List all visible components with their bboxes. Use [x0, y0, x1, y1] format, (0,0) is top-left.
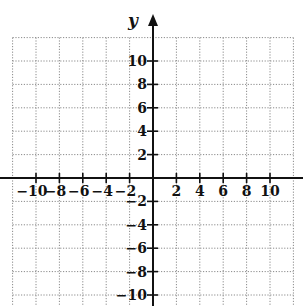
y-tick-label: −4: [126, 217, 148, 233]
x-tick-label: 2: [172, 183, 182, 199]
x-tick-label: 10: [260, 183, 280, 199]
y-tick-label: −8: [126, 264, 147, 280]
x-tick-label: −4: [91, 183, 113, 199]
y-tick-label: −2: [126, 193, 147, 209]
y-axis-arrow-icon: [148, 14, 158, 26]
x-axis-ticks: −10−8−6−4−2246810: [16, 173, 280, 199]
y-tick-label: −6: [126, 240, 147, 256]
x-tick-label: −6: [68, 183, 89, 199]
x-tick-label: 6: [218, 183, 228, 199]
y-tick-label: 10: [128, 53, 148, 69]
coordinate-plane: y −10−8−6−4−2246810 108642−2−4−6−8−10: [0, 0, 303, 306]
x-tick-label: 4: [195, 183, 205, 199]
y-axis-label: y: [127, 10, 139, 30]
x-tick-label: 8: [242, 183, 252, 199]
y-tick-label: −10: [116, 287, 147, 303]
y-tick-label: 4: [137, 123, 147, 139]
y-tick-label: 2: [137, 147, 147, 163]
x-tick-label: −8: [45, 183, 66, 199]
y-tick-label: 8: [137, 76, 147, 92]
y-tick-label: 6: [137, 100, 147, 116]
x-tick-label: −10: [16, 183, 47, 199]
